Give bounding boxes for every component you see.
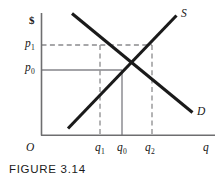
quantity-tick-label-q1: q1 bbox=[95, 142, 105, 154]
quantity-tick-label-q0: q0 bbox=[117, 142, 127, 154]
price-tick-label-p1: p1 bbox=[25, 38, 35, 50]
price-tick-base-p1: p bbox=[25, 37, 31, 49]
price-tick-sub-p0: 0 bbox=[31, 67, 35, 76]
quantity-tick-sub-q0: 0 bbox=[123, 147, 127, 156]
x-axis-label: q bbox=[203, 142, 209, 154]
figure-container: $ p1 p0 O q1 q0 q2 q S D FIGURE 3.14 bbox=[0, 0, 224, 184]
quantity-tick-base-q2: q bbox=[145, 141, 151, 153]
supply-curve-label: S bbox=[181, 8, 187, 20]
y-axis-label: $ bbox=[29, 15, 35, 26]
demand-curve bbox=[72, 14, 193, 113]
quantity-tick-sub-q2: 2 bbox=[151, 147, 155, 156]
price-tick-sub-p1: 1 bbox=[31, 43, 35, 52]
quantity-tick-label-q2: q2 bbox=[145, 142, 155, 154]
demand-curve-label: D bbox=[197, 106, 205, 118]
supply-demand-chart bbox=[0, 0, 224, 184]
quantity-tick-base-q1: q bbox=[95, 141, 101, 153]
origin-label: O bbox=[26, 142, 34, 154]
figure-caption: FIGURE 3.14 bbox=[9, 163, 86, 175]
price-tick-base-p0: p bbox=[25, 61, 31, 73]
quantity-tick-sub-q1: 1 bbox=[101, 147, 105, 156]
price-tick-label-p0: p0 bbox=[25, 62, 35, 74]
quantity-tick-base-q0: q bbox=[117, 141, 123, 153]
